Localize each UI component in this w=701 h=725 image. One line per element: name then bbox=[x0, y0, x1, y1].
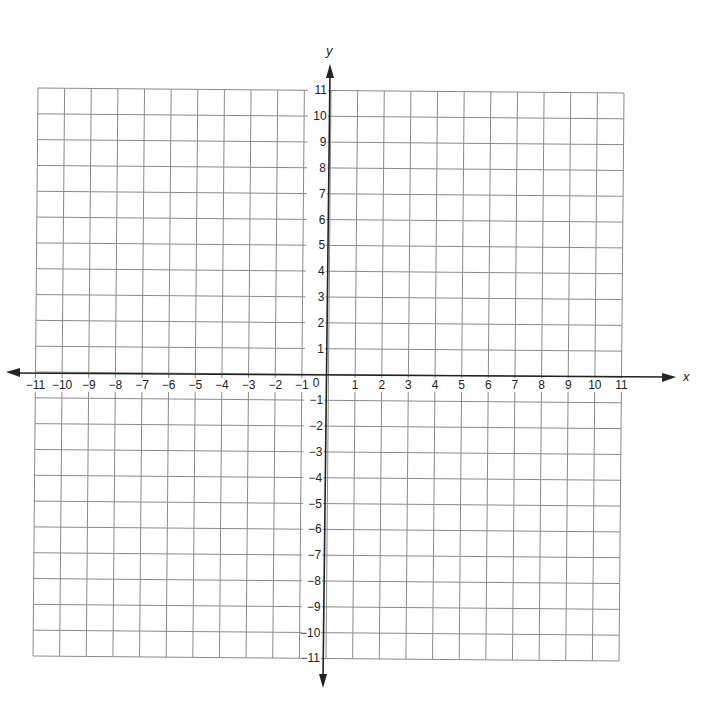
y-tick-label: −5 bbox=[308, 497, 322, 511]
y-tick-label: 7 bbox=[319, 187, 326, 201]
y-tick-label: 9 bbox=[320, 135, 327, 149]
x-tick-label: 9 bbox=[565, 378, 572, 392]
x-axis-left-arrow-icon bbox=[6, 368, 20, 377]
x-axis bbox=[14, 373, 668, 377]
y-tick-label: −4 bbox=[309, 471, 323, 485]
x-tick-label: −9 bbox=[82, 378, 96, 392]
x-tick-label: −5 bbox=[188, 378, 202, 392]
x-tick-label: −8 bbox=[109, 378, 123, 392]
y-tick-label: 5 bbox=[318, 238, 325, 252]
y-tick-label: −10 bbox=[300, 626, 321, 640]
y-axis-label: y bbox=[325, 43, 334, 58]
x-tick-label: −2 bbox=[268, 378, 282, 392]
x-tick-label: −10 bbox=[52, 378, 73, 392]
y-tick-label: −2 bbox=[309, 419, 323, 433]
x-tick-label: −1 bbox=[295, 378, 309, 392]
y-tick-label: −7 bbox=[308, 548, 322, 562]
y-tick-label: −8 bbox=[307, 574, 321, 588]
y-tick-label: 4 bbox=[318, 264, 325, 278]
x-tick-label: −7 bbox=[135, 378, 149, 392]
y-tick-label: −9 bbox=[307, 600, 321, 614]
x-tick-label: 11 bbox=[615, 378, 628, 392]
y-tick-label: 1 bbox=[317, 342, 324, 356]
x-axis-label: x bbox=[682, 369, 690, 384]
x-tick-label: −3 bbox=[242, 378, 256, 392]
x-tick-label: 2 bbox=[378, 378, 385, 392]
coordinate-plane: y x 0 −11−10−9−8−7−6−5−4−3−2−11234567891… bbox=[0, 0, 701, 725]
y-tick-label: −6 bbox=[308, 522, 322, 536]
y-tick-label: 6 bbox=[319, 213, 326, 227]
y-tick-label: 3 bbox=[318, 290, 325, 304]
y-axis-up-arrow-icon bbox=[326, 64, 334, 78]
y-tick-label: 8 bbox=[319, 161, 326, 175]
x-tick-label: 6 bbox=[485, 378, 492, 392]
x-tick-label: 1 bbox=[352, 378, 359, 392]
y-tick-label: 11 bbox=[315, 83, 328, 97]
y-tick-label: 10 bbox=[313, 109, 327, 123]
x-tick-label: 10 bbox=[588, 378, 602, 392]
origin-label: 0 bbox=[313, 376, 320, 390]
y-axis-down-arrow-icon bbox=[319, 674, 327, 688]
x-tick-label: −4 bbox=[215, 378, 229, 392]
x-tick-label: 4 bbox=[432, 378, 439, 392]
x-axis-right-arrow-icon bbox=[662, 373, 676, 382]
x-tick-label: 7 bbox=[512, 378, 519, 392]
y-tick-label: −3 bbox=[309, 445, 323, 459]
y-tick-label: −11 bbox=[301, 651, 321, 665]
x-tick-label: 3 bbox=[405, 378, 412, 392]
x-tick-label: −6 bbox=[162, 378, 176, 392]
x-tick-label: 8 bbox=[538, 378, 545, 392]
y-tick-label: 2 bbox=[317, 316, 324, 330]
y-tick-label: −1 bbox=[309, 393, 323, 407]
x-tick-label: −11 bbox=[26, 378, 46, 392]
x-tick-label: 5 bbox=[458, 378, 465, 392]
